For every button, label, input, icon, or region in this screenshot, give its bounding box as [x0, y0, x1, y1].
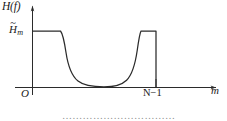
plot-canvas — [0, 0, 227, 121]
tilde-accent-icon: ~ — [10, 18, 16, 28]
caption-text: …………………………… — [62, 112, 175, 121]
x-tick-label-n-minus-1: N−1 — [143, 88, 162, 99]
figure-container: H(f) ~Hm O N−1 m …………………………… — [0, 0, 227, 121]
y-max-label: ~Hm — [9, 24, 23, 37]
response-curve — [33, 31, 156, 88]
x-axis-label: m — [211, 85, 219, 96]
y-max-subscript: m — [17, 28, 23, 37]
y-axis-label: H(f) — [2, 1, 20, 13]
caption-strip: …………………………… — [0, 112, 227, 121]
origin-label: O — [21, 88, 29, 99]
y-max-base: ~H — [9, 24, 17, 35]
